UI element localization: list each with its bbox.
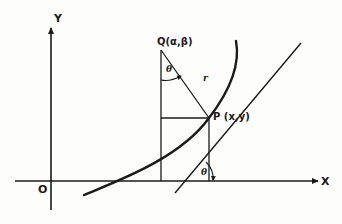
origin-label: O <box>38 184 47 195</box>
diagram-svg <box>0 0 342 224</box>
radius-line <box>161 50 209 118</box>
angle-arc-q <box>161 76 181 81</box>
radius-label: r <box>203 74 208 83</box>
point-p-label: P (x,y) <box>213 112 250 122</box>
y-axis-label: Y <box>54 13 62 24</box>
angle-theta-x-label: θ <box>201 168 207 177</box>
point-q-label: Q(α,β) <box>157 37 192 47</box>
angle-theta-q-label: θ <box>166 65 172 74</box>
x-axis-label: X <box>321 176 329 187</box>
curvature-diagram: Y X O Q(α,β) P (x,y) r θ θ <box>0 0 342 224</box>
